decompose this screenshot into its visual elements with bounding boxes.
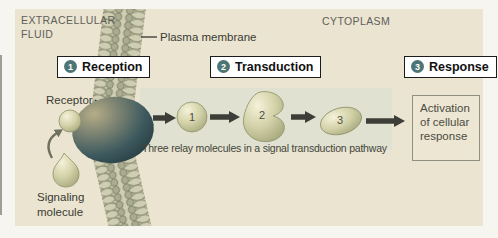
relay-3-number: 3 — [337, 114, 343, 126]
cellular-response-box: Activation of cellular response — [412, 95, 480, 161]
relay-1-number: 1 — [189, 111, 195, 123]
receptor-label: Receptor — [46, 93, 93, 108]
step-3-label: Response — [429, 60, 489, 74]
signaling-molecule-label: Signalingmolecule — [37, 190, 84, 219]
page-edge-artifact — [0, 55, 2, 215]
cytoplasm-label: CYTOPLASM — [322, 14, 390, 28]
extracellular-line2: FLUID — [21, 28, 53, 40]
signaling-line2: molecule — [37, 206, 83, 218]
pathway-caption: Three relay molecules in a signal transd… — [142, 142, 387, 154]
signaling-line1: Signaling — [37, 191, 84, 203]
extracellular-line1: EXTRACELLULAR — [21, 14, 115, 26]
relay-2-number: 2 — [259, 109, 265, 121]
step-badge-response: 3 Response — [404, 56, 497, 78]
step-1-label: Reception — [82, 60, 142, 74]
plasma-membrane-label: Plasma membrane — [160, 30, 257, 45]
figure-signal-transduction: EXTRACELLULARFLUID CYTOPLASM Plasma memb… — [0, 0, 498, 238]
extracellular-fluid-label: EXTRACELLULARFLUID — [21, 13, 115, 41]
step-badge-transduction: 2 Transduction — [210, 56, 321, 78]
step-2-label: Transduction — [235, 60, 313, 74]
step-badge-reception: 1 Reception — [57, 56, 150, 78]
step-3-number-icon: 3 — [411, 60, 424, 73]
step-2-number-icon: 2 — [217, 60, 230, 73]
step-1-number-icon: 1 — [64, 60, 77, 73]
